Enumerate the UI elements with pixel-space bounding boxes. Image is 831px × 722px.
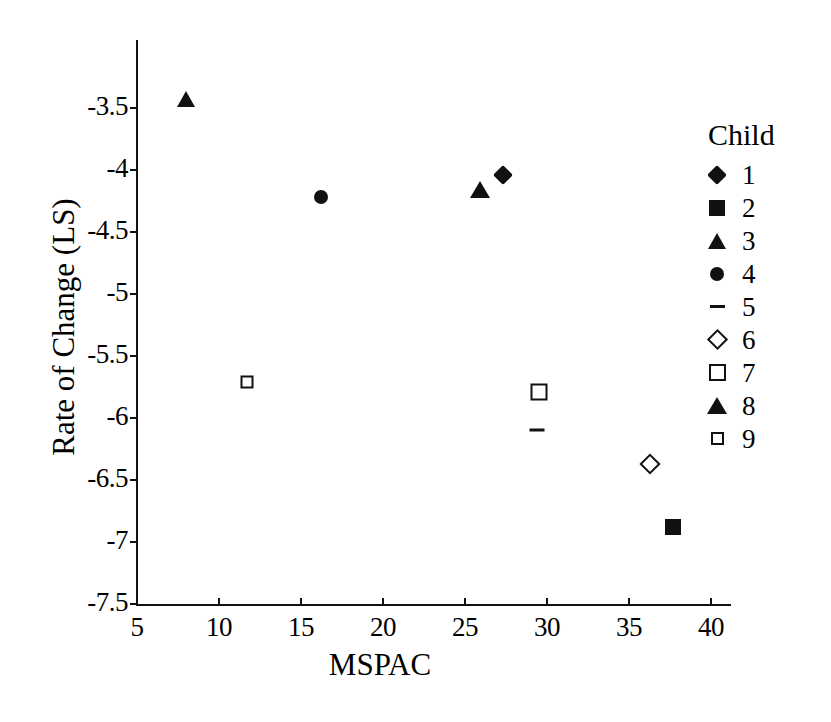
dash-icon (700, 290, 734, 323)
x-tick (464, 598, 466, 605)
x-tick-label: 35 (599, 612, 659, 642)
y-tick (130, 479, 137, 481)
data-point-child-7 (530, 383, 547, 400)
data-point-child-1 (493, 165, 513, 185)
legend-item-9[interactable]: 9 (700, 422, 825, 455)
legend-item-label: 4 (734, 260, 756, 288)
x-tick-label: 40 (681, 612, 741, 642)
legend-item-5[interactable]: 5 (700, 290, 825, 323)
y-tick (130, 541, 137, 543)
x-tick (546, 598, 548, 605)
y-axis-title: Rate of Change (LS) (47, 77, 81, 577)
y-tick (130, 107, 137, 109)
open-triangle-icon (700, 389, 734, 422)
filled-square-icon (700, 191, 734, 224)
data-point-child-5 (530, 429, 545, 432)
x-tick-label: 10 (189, 612, 249, 642)
x-tick-label: 15 (271, 612, 331, 642)
legend-item-label: 3 (734, 227, 756, 255)
x-tick (300, 598, 302, 605)
scatter-plot-figure: -3.5-4-4.5-5-5.5-6-6.5-7-7.5 51015202530… (0, 0, 831, 722)
legend-item-3[interactable]: 3 (700, 224, 825, 257)
x-tick-label: 20 (353, 612, 413, 642)
y-tick (130, 355, 137, 357)
legend-item-label: 2 (734, 194, 756, 222)
legend-item-7[interactable]: 7 (700, 356, 825, 389)
open-diamond-icon (700, 323, 734, 356)
x-tick (218, 598, 220, 605)
legend-item-label: 8 (734, 392, 756, 420)
data-point-child-6 (640, 453, 661, 474)
y-tick (130, 231, 137, 233)
legend-item-label: 6 (734, 326, 756, 354)
x-tick (136, 598, 138, 605)
y-tick (130, 169, 137, 171)
y-axis-line (136, 40, 138, 606)
legend-item-1[interactable]: 1 (700, 158, 825, 191)
filled-circle-icon (700, 257, 734, 290)
legend-item-6[interactable]: 6 (700, 323, 825, 356)
x-tick-label: 5 (107, 612, 167, 642)
x-axis-line (136, 604, 731, 606)
x-tick (710, 598, 712, 605)
y-tick (130, 293, 137, 295)
open-square-small-icon (700, 422, 734, 455)
data-point-child-3 (177, 91, 195, 107)
legend-item-label: 5 (734, 293, 756, 321)
open-square-icon (700, 356, 734, 389)
x-tick (382, 598, 384, 605)
y-tick (130, 417, 137, 419)
legend-item-4[interactable]: 4 (700, 257, 825, 290)
legend-item-label: 1 (734, 161, 756, 189)
x-axis-title: MSPAC (0, 648, 760, 682)
x-tick (628, 598, 630, 605)
data-point-child-9 (240, 376, 253, 389)
legend-item-label: 9 (734, 425, 756, 453)
legend-item-2[interactable]: 2 (700, 191, 825, 224)
legend: Child 123456789 (700, 118, 825, 455)
data-point-child-2 (665, 519, 681, 535)
x-tick-label: 30 (517, 612, 577, 642)
data-point-child-4 (314, 190, 328, 204)
legend-item-8[interactable]: 8 (700, 389, 825, 422)
filled-diamond-icon (700, 158, 734, 191)
data-point-child-8 (470, 164, 490, 198)
legend-item-label: 7 (734, 359, 756, 387)
legend-title: Child (708, 118, 825, 152)
legend-items: 123456789 (700, 158, 825, 455)
filled-triangle-icon (700, 224, 734, 257)
x-tick-label: 25 (435, 612, 495, 642)
